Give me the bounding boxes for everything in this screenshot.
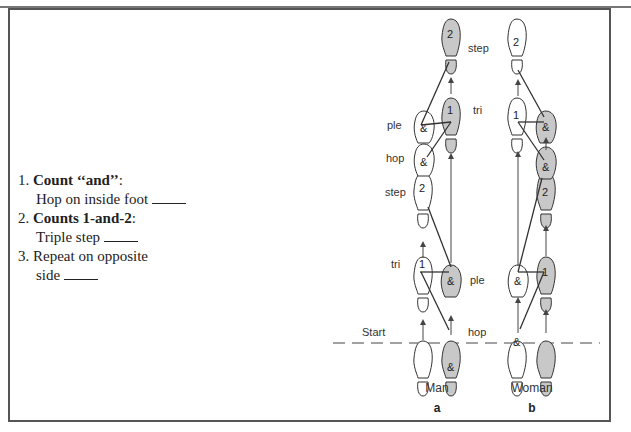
svg-text:Man: Man: [425, 381, 448, 395]
svg-text:2: 2: [419, 182, 425, 194]
svg-text:hop: hop: [468, 326, 486, 338]
svg-text:&: &: [447, 361, 455, 373]
svg-text:tri: tri: [473, 104, 482, 116]
svg-text:2: 2: [513, 36, 519, 48]
svg-text:2: 2: [542, 186, 548, 198]
svg-text:&: &: [513, 336, 521, 348]
svg-text:2: 2: [447, 28, 453, 40]
svg-text:ple: ple: [387, 119, 402, 131]
svg-text:&: &: [542, 121, 550, 133]
svg-text:Woman: Woman: [511, 381, 552, 395]
svg-text:1: 1: [513, 109, 519, 121]
woman-right-step-footprint: [537, 173, 555, 228]
svg-text:&: &: [447, 275, 455, 287]
woman-left-tri-footprint: [508, 98, 526, 153]
svg-text:ple: ple: [470, 274, 485, 286]
svg-text:1: 1: [447, 104, 453, 116]
man-footprints: [414, 19, 461, 396]
footwork-diagram: & 1 & 2 & & 1 2 step tri ple hop step tr…: [0, 0, 631, 432]
svg-text:step: step: [468, 42, 489, 54]
svg-text:&: &: [542, 161, 550, 173]
svg-text:b: b: [528, 401, 535, 415]
svg-text:&: &: [420, 156, 428, 168]
svg-text:1: 1: [419, 258, 425, 270]
svg-text:hop: hop: [386, 152, 404, 164]
svg-text:&: &: [514, 275, 522, 287]
svg-text:a: a: [434, 401, 441, 415]
svg-text:step: step: [385, 186, 406, 198]
svg-text:tri: tri: [391, 258, 400, 270]
svg-text:Start: Start: [362, 326, 385, 338]
